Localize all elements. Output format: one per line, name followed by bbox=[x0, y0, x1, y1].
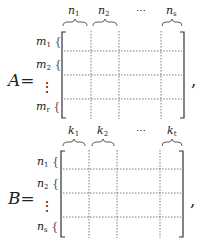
row-brace-icon: { bbox=[52, 155, 59, 168]
col-label-n1: n1 bbox=[68, 5, 80, 18]
equals-sign: = bbox=[21, 188, 35, 208]
row-brace-icon: { bbox=[51, 220, 58, 233]
col-ellipsis: ⋯ bbox=[136, 6, 146, 16]
row-label-m1: m1 { bbox=[36, 36, 61, 49]
row-brace-icon: { bbox=[53, 100, 60, 113]
row-label-mr: mr { bbox=[36, 101, 60, 114]
equals-sign: = bbox=[20, 70, 34, 90]
matrix-a-name: A bbox=[8, 70, 20, 90]
row-ellipsis: ⋮ bbox=[40, 80, 46, 94]
col-label-kt: kt bbox=[167, 125, 177, 138]
col-label-n2: n2 bbox=[98, 5, 110, 18]
row-brace-icon: { bbox=[54, 58, 61, 71]
matrix-a-graphics bbox=[62, 19, 184, 119]
col-ellipsis: ⋯ bbox=[136, 126, 146, 136]
row-ellipsis: ⋮ bbox=[40, 199, 46, 213]
col-label-k2: k2 bbox=[97, 125, 108, 138]
row-label-ns: ns { bbox=[37, 221, 58, 234]
row-brace-icon: { bbox=[54, 35, 61, 48]
matrix-lines bbox=[0, 0, 206, 245]
matrix-b-name: B bbox=[8, 188, 21, 208]
row-brace-icon: { bbox=[52, 177, 59, 190]
row-label-m2: m2 { bbox=[36, 59, 61, 72]
matrix-b-lhs: B= bbox=[8, 190, 35, 207]
matrix-a-comma: , bbox=[191, 72, 196, 89]
row-label-n2: n2 { bbox=[37, 178, 59, 191]
matrix-b-comma: , bbox=[190, 192, 195, 209]
matrix-b-graphics bbox=[61, 139, 183, 238]
col-label-k1: k1 bbox=[68, 125, 79, 138]
col-label-ns: ns bbox=[166, 5, 177, 18]
matrix-a-lhs: A= bbox=[8, 72, 35, 89]
row-label-n1: n1 { bbox=[37, 156, 59, 169]
